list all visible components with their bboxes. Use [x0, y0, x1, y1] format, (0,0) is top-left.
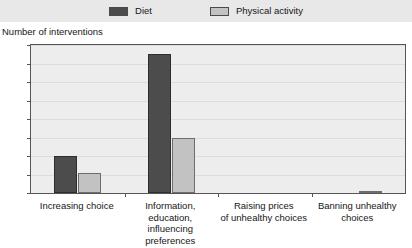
- bar-physical-activity: [359, 191, 382, 193]
- x-axis-label-line: Information, education,: [125, 200, 217, 223]
- gridline: [31, 138, 405, 139]
- x-axis-label: Banning unhealthychoices: [312, 200, 404, 223]
- gridline: [31, 156, 405, 157]
- gridline: [31, 82, 405, 83]
- y-tick-mark: [27, 119, 31, 120]
- x-tick-mark: [125, 193, 126, 197]
- x-axis-label: Raising pricesof unhealthy choices: [218, 200, 310, 223]
- x-axis-label-line: Raising prices: [218, 200, 310, 212]
- gridline: [31, 64, 405, 65]
- bar-diet: [54, 156, 77, 193]
- y-tick-mark: [27, 175, 31, 176]
- x-axis-label-line: choices: [312, 212, 404, 224]
- x-axis-label: Information, education,influencing prefe…: [125, 200, 217, 246]
- y-tick-mark: [27, 101, 31, 102]
- x-tick-mark: [312, 193, 313, 197]
- chart-legend: Diet Physical activity: [0, 0, 412, 22]
- gridline: [31, 101, 405, 102]
- y-tick-mark: [27, 45, 31, 46]
- y-tick-mark: [27, 82, 31, 83]
- legend-swatch-diet: [109, 7, 128, 16]
- y-axis-title: Number of interventions: [2, 26, 103, 37]
- x-tick-mark: [218, 193, 219, 197]
- x-axis-labels: Increasing choiceInformation, education,…: [30, 200, 406, 244]
- legend-label-diet: Diet: [135, 6, 152, 16]
- y-tick-mark: [27, 193, 31, 194]
- bar-physical-activity: [78, 173, 101, 193]
- y-tick-mark: [27, 64, 31, 65]
- legend-entry-physical-activity: Physical activity: [210, 6, 303, 16]
- x-axis-label-line: Increasing choice: [31, 200, 123, 212]
- bar-diet: [148, 54, 171, 193]
- bar-chart-figure: Diet Physical activity Number of interve…: [0, 0, 412, 248]
- plot-area: 01020304050607080: [30, 44, 406, 194]
- x-axis-label-line: of unhealthy choices: [218, 212, 310, 224]
- y-tick-mark: [27, 138, 31, 139]
- bar-physical-activity: [172, 138, 195, 194]
- y-tick-mark: [27, 156, 31, 157]
- legend-label-physical-activity: Physical activity: [236, 6, 303, 16]
- x-axis-label-line: influencing preferences: [125, 223, 217, 246]
- legend-entry-diet: Diet: [109, 6, 152, 16]
- gridline: [31, 45, 405, 46]
- x-axis-label: Increasing choice: [31, 200, 123, 212]
- x-axis-label-line: Banning unhealthy: [312, 200, 404, 212]
- gridline: [31, 119, 405, 120]
- legend-swatch-physical-activity: [210, 7, 229, 16]
